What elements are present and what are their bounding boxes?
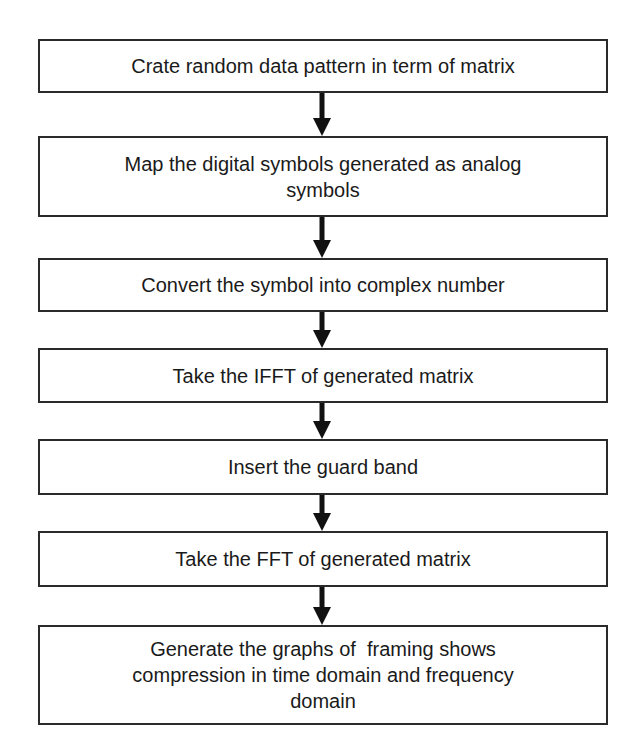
- step-create-random-data: Crate random data pattern in term of mat…: [38, 39, 608, 93]
- arrow-down-icon: [312, 217, 332, 258]
- step-insert-guard-band: Insert the guard band: [38, 439, 608, 495]
- step-label: Crate random data pattern in term of mat…: [131, 53, 515, 79]
- step-label: Generate the graphs of framing shows com…: [100, 636, 546, 714]
- step-convert-complex: Convert the symbol into complex number: [38, 258, 608, 312]
- step-label: Insert the guard band: [228, 454, 418, 480]
- step-generate-graphs: Generate the graphs of framing shows com…: [38, 625, 608, 725]
- step-label: Convert the symbol into complex number: [141, 272, 505, 298]
- arrow-down-icon: [312, 587, 332, 625]
- arrow-down-icon: [312, 495, 332, 531]
- arrow-down-icon: [312, 403, 332, 439]
- step-label: Take the IFFT of generated matrix: [173, 363, 474, 389]
- arrow-down-icon: [312, 312, 332, 348]
- step-take-ifft: Take the IFFT of generated matrix: [38, 348, 608, 403]
- step-label: Take the FFT of generated matrix: [175, 546, 470, 572]
- step-take-fft: Take the FFT of generated matrix: [38, 531, 608, 587]
- step-map-digital-symbols: Map the digital symbols generated as ana…: [38, 136, 608, 217]
- arrow-down-icon: [312, 93, 332, 136]
- step-label: Map the digital symbols generated as ana…: [100, 151, 546, 203]
